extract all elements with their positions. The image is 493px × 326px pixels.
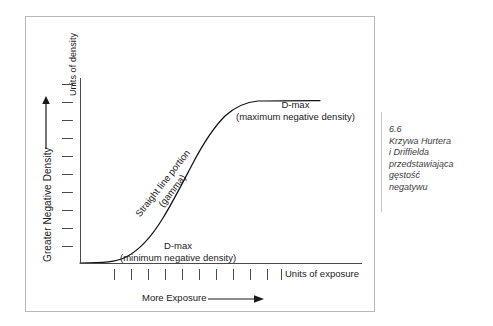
- y-axis-tick: [62, 138, 73, 139]
- x-axis-units-label: Units of exposure: [285, 268, 359, 279]
- y-axis-line: [80, 78, 81, 264]
- dmax-minimum-title: D-max: [120, 240, 236, 252]
- y-axis-units-label: Units of density: [68, 33, 78, 96]
- x-axis-tick: [182, 269, 183, 280]
- y-axis-title: Greater Negative Density: [42, 147, 53, 262]
- x-axis-tick: [216, 269, 217, 280]
- y-axis-tick: [62, 210, 73, 211]
- x-axis-tick: [267, 269, 268, 280]
- arrow-right-icon: [208, 294, 264, 304]
- x-axis-tick: [199, 269, 200, 280]
- arrow-up-icon: [41, 96, 51, 150]
- caption-line: gęstość: [389, 170, 485, 182]
- dmax-maximum-subtitle: (maximum negative density): [236, 111, 355, 123]
- x-axis-tick: [148, 269, 149, 280]
- y-axis-tick: [62, 156, 73, 157]
- figure-root: Units of density Greater Negative Densit…: [0, 0, 493, 326]
- y-axis-tick: [62, 102, 73, 103]
- x-axis-tick: [131, 269, 132, 280]
- caption-line: przedstawiająca: [389, 159, 485, 171]
- x-axis-tick: [233, 269, 234, 280]
- y-axis-tick: [62, 192, 73, 193]
- dmax-maximum-title: D-max: [236, 99, 355, 111]
- caption-line: negatywu: [389, 182, 485, 194]
- dmax-minimum-annotation: D-max (minimum negative density): [120, 240, 236, 264]
- x-axis-tick: [114, 269, 115, 280]
- x-axis-tick: [250, 269, 251, 280]
- y-axis-tick: [62, 228, 73, 229]
- caption-line: Krzywa Hurtera: [389, 136, 485, 148]
- dmax-minimum-subtitle: (minimum negative density): [120, 252, 236, 264]
- figure-caption: 6.6 Krzywa Hurtera i Driffielda przedsta…: [389, 124, 485, 194]
- x-axis-title: More Exposure: [142, 292, 206, 303]
- x-axis-tick: [165, 269, 166, 280]
- caption-divider: [381, 112, 382, 212]
- caption-number: 6.6: [389, 124, 485, 136]
- y-axis-tick: [62, 174, 73, 175]
- x-axis-tick: [281, 269, 282, 280]
- dmax-maximum-annotation: D-max (maximum negative density): [236, 99, 355, 123]
- y-axis-tick: [62, 120, 73, 121]
- caption-line: i Driffielda: [389, 147, 485, 159]
- y-axis-tick: [62, 246, 73, 247]
